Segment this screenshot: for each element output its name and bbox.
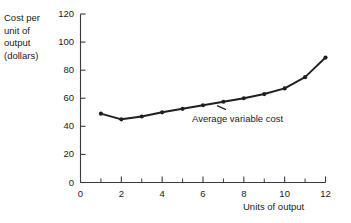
average-variable-cost-chart: Cost per unit of output (dollars) 020406… xyxy=(0,0,351,223)
data-point-marker xyxy=(221,100,225,104)
x-tick-label: 12 xyxy=(312,189,340,199)
average-variable-cost-line xyxy=(101,58,326,120)
data-point-marker xyxy=(119,117,123,121)
annotation-leader-line xyxy=(218,106,226,110)
x-tick-label: 0 xyxy=(67,189,95,199)
x-axis-label: Units of output xyxy=(243,201,304,212)
y-tick-label: 20 xyxy=(48,149,74,159)
data-point-marker xyxy=(242,96,246,100)
y-tick-label: 60 xyxy=(48,93,74,103)
y-tick-label: 100 xyxy=(48,37,74,47)
axes xyxy=(81,14,326,183)
x-tick-label: 6 xyxy=(189,189,217,199)
data-point-markers xyxy=(99,55,328,121)
data-point-marker xyxy=(201,103,205,107)
data-point-marker xyxy=(303,75,307,79)
y-axis-ticks xyxy=(81,14,86,183)
x-tick-label: 10 xyxy=(271,189,299,199)
data-point-marker xyxy=(99,112,103,116)
data-point-marker xyxy=(160,110,164,114)
x-tick-label: 8 xyxy=(230,189,258,199)
y-tick-label: 0 xyxy=(48,178,74,188)
x-tick-label: 2 xyxy=(107,189,135,199)
x-tick-label: 4 xyxy=(148,189,176,199)
y-tick-label: 80 xyxy=(48,65,74,75)
data-point-marker xyxy=(323,55,327,59)
y-tick-label: 40 xyxy=(48,121,74,131)
data-point-marker xyxy=(140,114,144,118)
series-annotation-label: Average variable cost xyxy=(192,113,283,124)
y-tick-label: 120 xyxy=(48,9,74,19)
data-point-marker xyxy=(283,86,287,90)
data-point-marker xyxy=(180,107,184,111)
x-axis-ticks xyxy=(101,177,326,183)
data-point-marker xyxy=(262,92,266,96)
